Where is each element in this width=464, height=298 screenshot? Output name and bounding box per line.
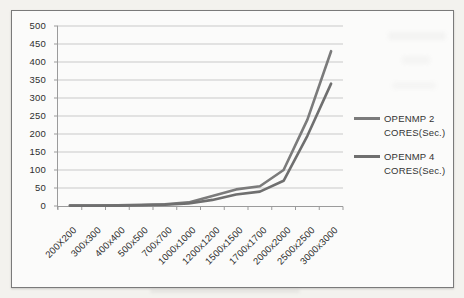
y-tick-label: 300 [16, 92, 46, 104]
scan-artifact [388, 32, 446, 40]
y-tick-label: 250 [16, 110, 46, 122]
y-tick-label: 0 [16, 200, 46, 212]
scanned-page: 050100150200250300350400450500 200X20030… [0, 0, 464, 298]
scan-artifact [402, 56, 430, 64]
y-tick-label: 150 [16, 146, 46, 158]
legend-entry-openmp2: OPENMP 2 CORES(Sec.) [354, 112, 460, 139]
y-tick-label: 400 [16, 56, 46, 68]
scan-artifact [392, 82, 436, 89]
legend: OPENMP 2 CORES(Sec.) OPENMP 4 CORES(Sec.… [354, 112, 460, 188]
scan-artifact [150, 289, 300, 293]
legend-entry-openmp4: OPENMP 4 CORES(Sec.) [354, 150, 460, 177]
y-tick-label: 450 [16, 38, 46, 50]
y-tick-label: 200 [16, 128, 46, 140]
y-tick-label: 100 [16, 164, 46, 176]
legend-line-sample-openmp2 [354, 117, 380, 120]
legend-label-openmp2: OPENMP 2 CORES(Sec.) [384, 112, 445, 139]
y-tick-label: 500 [16, 20, 46, 32]
y-tick-label: 350 [16, 74, 46, 86]
y-tick-label: 50 [16, 182, 46, 194]
legend-line-sample-openmp4 [354, 155, 380, 158]
legend-label-openmp4: OPENMP 4 CORES(Sec.) [384, 150, 445, 177]
